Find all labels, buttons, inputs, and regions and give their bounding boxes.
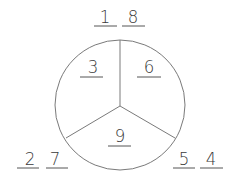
section-bottom-value: 9 [110,127,130,145]
outer-bottom-left-b-value: 7 [45,150,65,168]
outer-bottom-right-a-value: 5 [174,150,194,168]
outer-bottom-left-a-value: 2 [20,150,40,168]
outer-bottom-right-b-value: 4 [201,150,221,168]
outer-top-left-value: 1 [95,8,115,26]
outer-top-right-value: 8 [123,8,143,26]
section-top-right-value: 6 [139,58,159,76]
section-top-left-value: 3 [83,58,103,76]
